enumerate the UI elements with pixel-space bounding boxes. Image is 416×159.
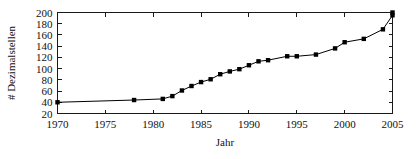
x-tick-label: 1985 xyxy=(190,118,213,130)
data-point-marker xyxy=(333,46,337,50)
data-point-marker xyxy=(228,69,232,73)
data-point-marker xyxy=(390,10,394,14)
data-point-marker xyxy=(285,54,289,58)
y-tick-label: 120 xyxy=(36,51,53,63)
y-tick-label: 80 xyxy=(42,74,54,86)
data-point-marker xyxy=(247,63,251,67)
y-tick-label: 100 xyxy=(36,63,53,75)
data-point-marker xyxy=(256,59,260,63)
data-point-marker xyxy=(362,37,366,41)
x-axis-title: Jahr xyxy=(216,136,235,148)
data-point-marker xyxy=(295,54,299,58)
data-point-marker xyxy=(132,98,136,102)
y-tick-label: 180 xyxy=(36,18,53,30)
y-tick-label: 140 xyxy=(36,40,53,52)
y-tick-label: 60 xyxy=(42,85,54,97)
data-point-marker xyxy=(208,77,212,81)
x-tick-label: 1990 xyxy=(238,118,261,130)
x-axis-tick-labels: 19701975198019851990199520002005 xyxy=(47,118,405,130)
y-tick-label: 160 xyxy=(36,29,53,41)
x-tick-label: 2000 xyxy=(334,118,357,130)
y-axis-title: # Dezimalstellen xyxy=(5,25,17,100)
data-point-marker xyxy=(55,100,59,104)
axis-tick-marks xyxy=(58,13,393,114)
data-point-marker xyxy=(180,88,184,92)
y-tick-label: 200 xyxy=(36,7,53,19)
x-tick-label: 1995 xyxy=(286,118,309,130)
data-point-marker xyxy=(314,52,318,56)
data-point-marker xyxy=(381,27,385,31)
y-axis-tick-labels: 20406080100120140160180200 xyxy=(36,7,53,120)
data-point-marker xyxy=(199,80,203,84)
line-chart: 20406080100120140160180200 1970197519801… xyxy=(0,0,416,159)
data-series-line xyxy=(58,13,393,103)
data-point-marker xyxy=(189,84,193,88)
y-tick-label: 40 xyxy=(42,96,54,108)
data-point-marker xyxy=(170,94,174,98)
x-tick-label: 1970 xyxy=(47,118,70,130)
chart-figure: 20406080100120140160180200 1970197519801… xyxy=(0,0,416,159)
data-point-marker xyxy=(342,40,346,44)
data-point-marker xyxy=(161,97,165,101)
plot-frame xyxy=(58,13,393,114)
x-tick-label: 1980 xyxy=(142,118,165,130)
x-tick-label: 2005 xyxy=(382,118,405,130)
data-point-marker xyxy=(266,58,270,62)
data-point-markers xyxy=(55,10,394,104)
data-point-marker xyxy=(237,67,241,71)
x-tick-label: 1975 xyxy=(94,118,117,130)
data-point-marker xyxy=(218,72,222,76)
